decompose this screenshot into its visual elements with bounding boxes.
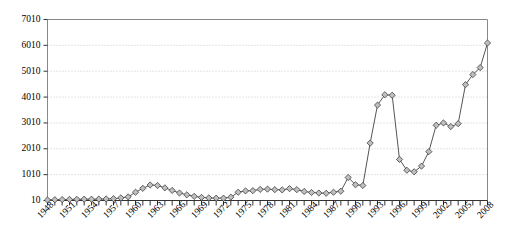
data-point-marker <box>426 149 432 155</box>
data-point-marker <box>404 167 410 173</box>
y-tick-label: 2010 <box>22 143 41 153</box>
data-point-marker <box>440 120 446 126</box>
line-chart: 101010201030104010501060107010 194819511… <box>0 0 508 249</box>
data-point-marker <box>125 194 131 200</box>
data-point-marker <box>308 189 314 195</box>
data-point-marker <box>294 187 300 193</box>
y-tick-label: 6010 <box>22 40 41 50</box>
data-point-marker <box>169 187 175 193</box>
data-point-marker <box>374 102 380 108</box>
y-tick-label: 1010 <box>22 169 41 179</box>
data-point-marker <box>235 189 241 195</box>
y-tick-label: 5010 <box>22 66 41 76</box>
data-point-marker <box>96 196 102 202</box>
data-point-marker <box>301 188 307 194</box>
data-point-marker <box>330 189 336 195</box>
data-point-marker <box>59 196 65 202</box>
data-point-marker <box>162 185 168 191</box>
data-point-marker <box>279 187 285 193</box>
data-point-marker <box>191 193 197 199</box>
y-tick-label: 3010 <box>22 117 41 127</box>
data-point-marker <box>338 188 344 194</box>
data-point-marker <box>455 121 461 127</box>
data-point-marker <box>360 182 366 188</box>
data-point-marker <box>74 196 80 202</box>
y-tick-label: 10 <box>31 195 41 205</box>
data-point-marker <box>316 190 322 196</box>
data-point-marker <box>81 196 87 202</box>
data-point-marker <box>257 186 263 192</box>
data-point-marker <box>154 182 160 188</box>
data-point-marker <box>272 187 278 193</box>
data-point-marker <box>132 189 138 195</box>
data-point-marker <box>323 190 329 196</box>
data-point-marker <box>367 140 373 146</box>
data-point-marker <box>484 40 490 46</box>
data-point-marker <box>147 182 153 188</box>
data-point-marker <box>176 190 182 196</box>
data-point-marker <box>242 188 248 194</box>
data-point-marker <box>103 196 109 202</box>
data-point-marker <box>286 186 292 192</box>
data-point-marker <box>140 185 146 191</box>
data-point-marker <box>448 123 454 129</box>
data-point-marker <box>228 194 234 200</box>
data-point-marker <box>264 186 270 192</box>
data-point-marker <box>52 197 58 203</box>
y-tick-label: 4010 <box>22 92 41 102</box>
data-point-marker <box>184 192 190 198</box>
data-point-marker <box>396 156 402 162</box>
data-point-marker <box>250 188 256 194</box>
y-tick-label: 7010 <box>22 14 41 24</box>
data-series-line <box>48 43 488 200</box>
